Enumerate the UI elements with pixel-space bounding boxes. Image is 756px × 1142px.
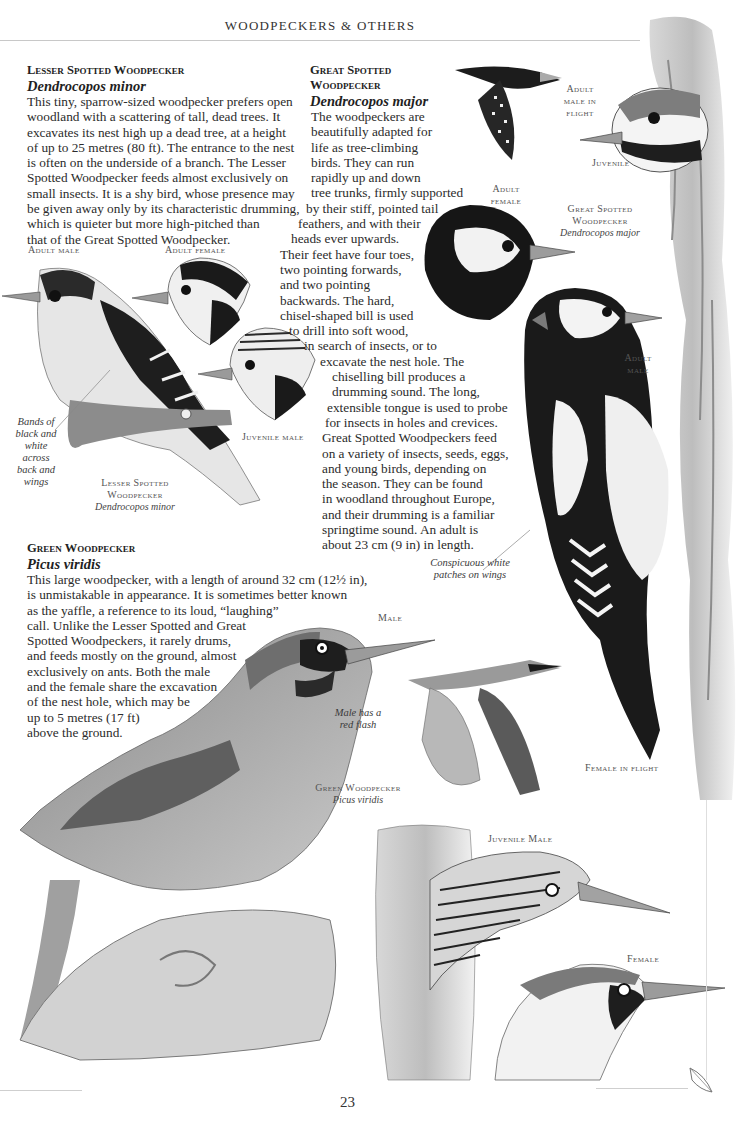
text-line: to drill into soft wood, xyxy=(0,323,560,338)
plate-latin: Picus viridis xyxy=(308,794,408,806)
page-number: 23 xyxy=(340,1094,355,1111)
text-line: beautifully adapted for xyxy=(0,124,560,139)
text-line: This tiny, sparrow-sized woodpecker pref… xyxy=(27,94,317,109)
caption-line: flight xyxy=(558,107,602,119)
note-line: patches on wings xyxy=(420,569,520,581)
text-line: chisel-shaped bill is used xyxy=(0,308,560,323)
plate-name-line: Green Woodpecker xyxy=(308,782,408,794)
note-red-flash: Male has a red flash xyxy=(328,707,388,731)
note-line: Male has a xyxy=(328,707,388,719)
illustration-green-woodpecker-female-flight xyxy=(408,660,562,795)
text-line: and their drumming is a familiar xyxy=(0,507,560,522)
text-line: Spotted Woodpeckers, it rarely drums, xyxy=(27,633,427,648)
leaf-ornament-icon xyxy=(690,1068,712,1092)
species-common-name: Great Spotted xyxy=(310,63,428,78)
plate-label-great: Great Spotted Woodpecker Dendrocopos maj… xyxy=(555,203,645,239)
footer-rule-left xyxy=(0,1090,82,1091)
plate-label-green: Green Woodpecker Picus viridis xyxy=(308,782,408,806)
text-line: two pointing forwards, xyxy=(0,262,560,277)
caption-line: male xyxy=(618,364,658,376)
caption-adult-male: Adult male xyxy=(618,352,658,376)
species-latin-name: Picus viridis xyxy=(27,556,427,572)
plate-vertical-rule xyxy=(706,800,707,1080)
great-spotted-heading: Great Spotted Woodpecker Dendrocopos maj… xyxy=(310,63,428,109)
illustration-green-woodpecker-female-head xyxy=(495,964,725,1080)
caption-juvenile: Juvenile xyxy=(592,157,629,169)
caption-adult-male-in-flight: Adult male in flight xyxy=(558,83,602,119)
text-line: and feeds mostly on the ground, almost xyxy=(27,648,427,663)
caption-line: Adult xyxy=(485,183,527,195)
text-line: and two pointing xyxy=(0,277,560,292)
caption-male: Male xyxy=(378,612,402,624)
text-line: The woodpeckers are xyxy=(0,109,560,124)
text-line: for insects in holes and crevices. xyxy=(0,415,560,430)
text-line: feathers, and with their xyxy=(0,216,560,231)
note-white-patches: Conspicuous white patches on wings xyxy=(420,557,520,581)
text-line: as the yaffle, a reference to its loud, … xyxy=(27,603,427,618)
caption-line: Adult xyxy=(558,83,602,95)
text-line: and the female share the excavation xyxy=(27,679,427,694)
caption-juvenile-male: Juvenile Male xyxy=(488,833,552,845)
text-line: the season. They can be found xyxy=(0,476,560,491)
text-line: chiselling bill produces a xyxy=(0,369,560,384)
species-latin-name: Dendrocopos major xyxy=(310,93,428,109)
text-line: extensible tongue is used to probe xyxy=(0,400,560,415)
plate-name-line: Great Spotted xyxy=(555,203,645,215)
species-common-name: Green Woodpecker xyxy=(27,541,427,556)
caption-line: male in xyxy=(558,95,602,107)
plate-name-line: Woodpecker xyxy=(555,215,645,227)
text-line: drumming sound. The long, xyxy=(0,384,560,399)
text-line: springtime sound. An adult is xyxy=(0,522,560,537)
plate-latin: Dendrocopos major xyxy=(555,227,645,239)
species-common-name: Woodpecker xyxy=(310,78,428,93)
text-line: excavate the nest hole. The xyxy=(0,354,560,369)
text-line: call. Unlike the Lesser Spotted and Grea… xyxy=(27,618,427,633)
text-line: exclusively on ants. Both the male xyxy=(27,664,427,679)
text-line: on a variety of insects, seeds, eggs, xyxy=(0,446,560,461)
caption-adult-female: Adult female xyxy=(485,183,527,207)
species-latin-name: Dendrocopos minor xyxy=(27,78,317,94)
text-line: This large woodpecker, with a length of … xyxy=(27,572,427,587)
footer-rule-right xyxy=(596,1088,688,1089)
caption-line: Adult xyxy=(618,352,658,364)
text-line: and young birds, depending on xyxy=(0,461,560,476)
text-line: Their feet have four toes, xyxy=(0,247,560,262)
text-line: in search of insects, or to xyxy=(0,338,560,353)
great-spotted-description: The woodpeckers are beautifully adapted … xyxy=(0,109,560,553)
text-line: tree trunks, firmly supported xyxy=(0,185,560,200)
text-line: in woodland throughout Europe, xyxy=(0,491,560,506)
text-line: life as tree-climbing xyxy=(0,140,560,155)
species-common-name: Lesser Spotted Woodpecker xyxy=(27,63,317,78)
text-line: backwards. The hard, xyxy=(0,293,560,308)
text-line: is unmistakable in appearance. It is som… xyxy=(27,587,427,602)
caption-female: Female xyxy=(627,953,659,965)
caption-line: female xyxy=(485,195,527,207)
text-line: by their stiff, pointed tail xyxy=(0,201,560,216)
text-line: heads ever upwards. xyxy=(0,231,560,246)
note-line: Conspicuous white xyxy=(420,557,520,569)
caption-female-in-flight: Female in flight xyxy=(585,762,658,774)
text-line: Great Spotted Woodpeckers feed xyxy=(0,430,560,445)
text-line: birds. They can run xyxy=(0,155,560,170)
text-line: rapidly up and down xyxy=(0,170,560,185)
note-line: red flash xyxy=(328,719,388,731)
